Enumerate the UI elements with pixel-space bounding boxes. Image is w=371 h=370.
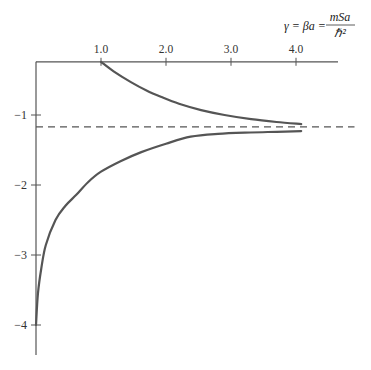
formula-lhs: γ = βa = <box>284 19 326 33</box>
y-tick-label: −1 <box>14 108 27 122</box>
series <box>36 62 355 325</box>
ticks: 1.02.03.04.0−1−2−3−4 <box>14 43 303 332</box>
series-upper-branch <box>101 62 301 124</box>
x-axis-formula-label: γ = βa = mSa ℏ² <box>284 10 355 40</box>
formula-numerator: mSa <box>330 10 351 24</box>
formula-lhs-text: γ = βa = <box>284 19 326 33</box>
x-tick-label: 3.0 <box>224 43 239 55</box>
x-tick-label: 2.0 <box>159 43 174 55</box>
formula-denominator: ℏ² <box>334 26 346 40</box>
chart: 1.02.03.04.0−1−2−3−4 γ = βa = mSa ℏ² <box>0 0 371 370</box>
y-tick-label: −4 <box>14 318 27 332</box>
series-lower-branch <box>36 131 301 325</box>
y-tick-label: −3 <box>14 248 27 262</box>
x-tick-label: 4.0 <box>289 43 304 55</box>
y-tick-label: −2 <box>14 178 27 192</box>
x-tick-label: 1.0 <box>94 43 109 55</box>
